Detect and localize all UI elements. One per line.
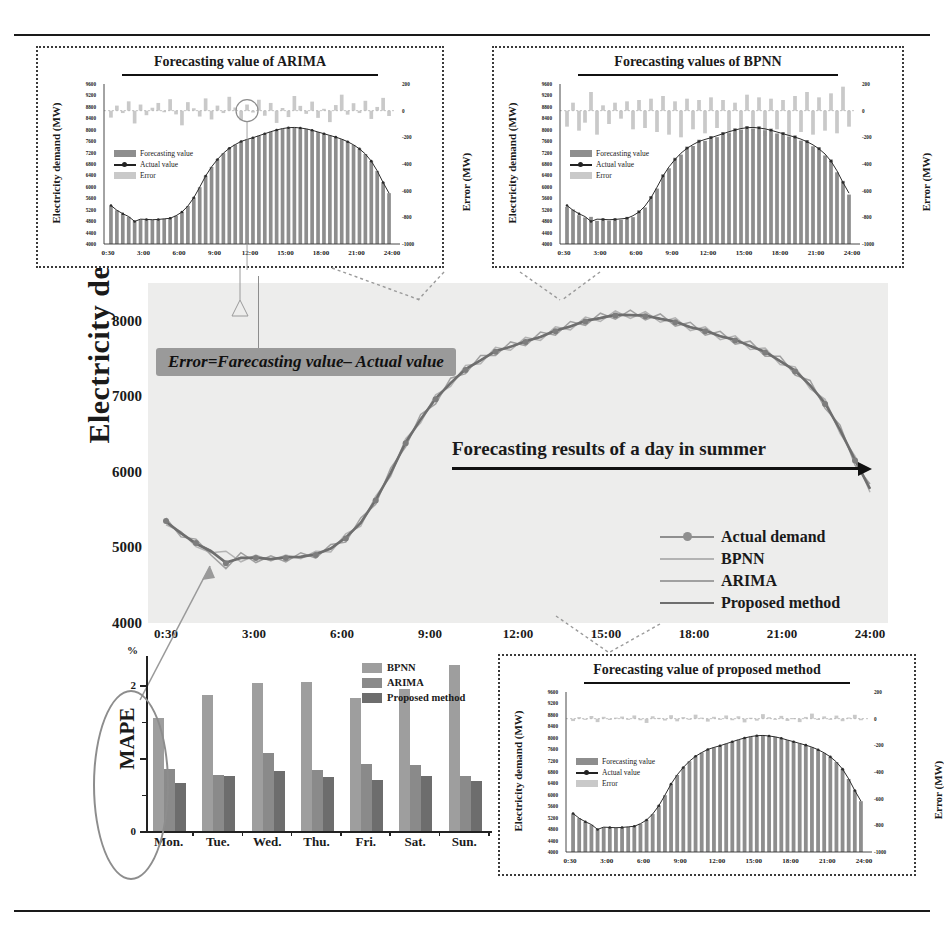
mape-bar	[410, 765, 421, 831]
legend-swatch-icon	[362, 693, 382, 703]
annotation-arrow-icon	[452, 462, 872, 476]
inset-y2-axis-title: Error (MW)	[460, 132, 472, 232]
mape-bar	[421, 776, 432, 831]
mape-x-tick: Thu.	[303, 834, 329, 850]
legend-swatch-icon	[576, 780, 598, 787]
inset-legend-item: Actual value	[114, 159, 193, 170]
mape-y-unit: %	[127, 644, 138, 656]
inset-legend-item: Forecasting value	[576, 756, 655, 767]
inset-legend-label: Actual value	[602, 768, 640, 777]
inset-legend-label: Forecasting value	[602, 757, 655, 766]
mape-x-tickmark	[242, 831, 244, 836]
mape-x-tick: Wed.	[253, 834, 282, 850]
main-y-tick: 7000	[112, 388, 142, 405]
mape-x-tickmark	[439, 831, 441, 836]
inset-legend-item: Error	[570, 170, 649, 181]
inset-plot-svg	[494, 48, 906, 270]
inset-legend-item: Actual value	[570, 159, 649, 170]
mape-bar	[361, 764, 372, 831]
top-rule	[14, 34, 930, 36]
inset-plot-svg	[38, 48, 446, 270]
main-y-tick: 6000	[112, 463, 142, 480]
mape-x-tick: Sun.	[452, 834, 477, 850]
mape-x-tickmark	[389, 831, 391, 836]
main-x-tick: 9:00	[418, 626, 442, 642]
main-legend-item: BPNN	[660, 548, 840, 570]
mape-legend-label: ARIMA	[387, 677, 424, 688]
inset-legend-label: Actual value	[140, 160, 178, 169]
mape-legend-item: Proposed method	[362, 690, 465, 705]
mape-bar	[274, 771, 285, 831]
main-x-tick: 21:00	[767, 626, 797, 642]
inset-legend-item: Error	[576, 778, 655, 789]
main-x-tick: 6:00	[330, 626, 354, 642]
main-x-tick: 3:00	[242, 626, 266, 642]
inset-panel-bpnn: Forecasting values of BPNNElectricity de…	[492, 46, 904, 268]
legend-line-icon	[570, 161, 592, 168]
mape-y-tickmark	[140, 685, 146, 687]
inset-legend-label: Forecasting value	[140, 149, 193, 158]
main-x-tick: 24:00	[855, 626, 885, 642]
inset-legend: Forecasting valueActual valueError	[576, 756, 655, 789]
inset-legend-label: Error	[140, 171, 156, 180]
mape-legend-label: BPNN	[387, 662, 416, 673]
mape-bar	[224, 776, 235, 831]
main-x-tick: 0:30	[154, 626, 178, 642]
inset-legend-item: Actual value	[576, 767, 655, 778]
inset-legend-item: Forecasting value	[114, 148, 193, 159]
main-y-tick-labels: 80007000600050004000	[80, 283, 142, 623]
inset-legend-label: Error	[596, 171, 612, 180]
mape-bar	[460, 776, 471, 831]
mape-bar	[471, 781, 482, 831]
mape-bar-group	[252, 656, 291, 831]
mape-x-tick: Fri.	[355, 834, 376, 850]
main-y-tick: 4000	[112, 615, 142, 632]
inset-legend-label: Actual value	[596, 160, 634, 169]
main-legend-item: Actual demand	[660, 526, 840, 548]
mape-bar	[312, 770, 323, 831]
error-definition-callout: Error=Farecasting value– Actual value	[156, 348, 456, 376]
main-x-tick: 18:00	[679, 626, 709, 642]
mape-legend-item: ARIMA	[362, 675, 465, 690]
mape-bar	[301, 682, 312, 831]
summer-results-annotation: Forecasting results of a day in summer	[452, 438, 872, 476]
mape-legend-label: Proposed method	[387, 692, 465, 703]
mape-bar	[399, 689, 410, 831]
mape-legend: BPNNARIMAProposed method	[362, 660, 465, 705]
main-legend-label: Proposed method	[721, 594, 840, 612]
summer-results-annotation-text: Forecasting results of a day in summer	[452, 438, 872, 460]
legend-swatch-icon	[660, 531, 714, 543]
inset-legend-label: Error	[602, 779, 618, 788]
mape-bar-group	[301, 656, 340, 831]
mape-bar	[202, 695, 213, 831]
main-x-tick: 15:00	[591, 626, 621, 642]
mape-x-tickmark	[192, 831, 194, 836]
legend-line-icon	[114, 161, 136, 168]
legend-swatch-icon	[660, 597, 714, 609]
main-x-tick-labels: 0:303:006:009:0012:0015:0018:0021:0024:0…	[148, 626, 888, 646]
main-legend-item: ARIMA	[660, 570, 840, 592]
legend-line-icon	[576, 769, 598, 776]
legend-swatch-icon	[362, 678, 382, 688]
inset-y2-axis-title: Error (MW)	[932, 740, 944, 840]
mape-bar	[372, 780, 383, 831]
mape-x-tick: Sat.	[404, 834, 425, 850]
callout-leader-line	[258, 276, 259, 348]
main-y-tick: 5000	[112, 539, 142, 556]
mape-bar	[175, 783, 186, 831]
main-legend-label: Actual demand	[721, 528, 825, 546]
mape-monday-highlight-ellipse	[93, 690, 169, 880]
mape-bar	[263, 753, 274, 831]
inset-plot-svg	[500, 656, 918, 878]
mape-bar	[350, 698, 361, 831]
inset-y2-axis-title: Error (MW)	[920, 132, 932, 232]
legend-swatch-icon	[114, 150, 136, 157]
inset-panel-proposed: Forecasting value of proposed methodElec…	[498, 654, 916, 876]
legend-swatch-icon	[570, 172, 592, 179]
mape-bar-group	[202, 656, 241, 831]
mape-x-tick: Tue.	[206, 834, 230, 850]
inset-legend: Forecasting valueActual valueError	[570, 148, 649, 181]
inset-panel-arima: Forecasting value of ARIMAElectricity de…	[36, 46, 444, 268]
main-x-tick: 12:00	[503, 626, 533, 642]
inset-legend: Forecasting valueActual valueError	[114, 148, 193, 181]
